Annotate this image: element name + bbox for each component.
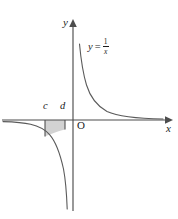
equation-equals-sign: = — [95, 42, 101, 53]
x-axis-label: x — [166, 123, 171, 134]
shaded-area-region — [45, 120, 65, 136]
hyperbola-plot — [0, 0, 178, 219]
point-label-d: d — [60, 101, 65, 112]
equation-fraction: 1 x — [103, 38, 109, 56]
hyperbola-branch-quadrant-3 — [3, 122, 67, 209]
y-axis-label: y — [63, 17, 68, 28]
point-label-c: c — [43, 101, 48, 112]
figure-container: y x O c d y = 1 x — [0, 0, 178, 219]
fraction-numerator: 1 — [103, 38, 109, 46]
fraction-denominator: x — [103, 48, 108, 56]
equation-left-side: y — [88, 42, 93, 53]
equation-label: y = 1 x — [88, 38, 109, 56]
y-axis-arrowhead — [69, 19, 77, 27]
origin-label: O — [77, 120, 85, 131]
